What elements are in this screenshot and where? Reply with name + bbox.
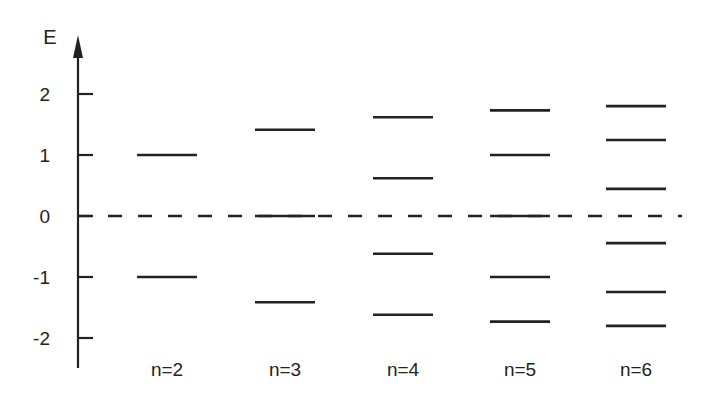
energy-axis: E [43,26,83,368]
column-label: n=5 [504,359,536,380]
column-label: n=2 [151,359,183,380]
y-tick-label: 0 [39,206,50,227]
column-label: n=4 [387,359,420,380]
column-label: n=6 [620,359,652,380]
y-tick-label: -1 [33,267,50,288]
column-label: n=3 [269,359,301,380]
y-tick-label: 1 [39,145,50,166]
energy-levels [137,106,666,326]
axis-label-e: E [43,26,56,48]
energy-level-diagram: E 210-1-2 n=2n=3n=4n=5n=6 [0,0,706,401]
y-tick-label: -2 [33,328,50,349]
column-labels: n=2n=3n=4n=5n=6 [151,359,652,380]
arrow-up-icon [73,35,83,58]
y-tick-label: 2 [39,84,50,105]
